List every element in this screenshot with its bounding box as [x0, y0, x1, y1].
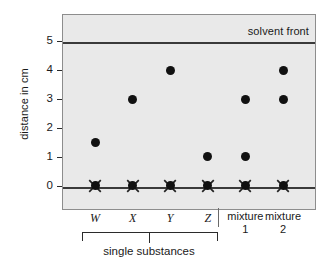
solvent-front-label: solvent front — [248, 25, 309, 37]
y-tick-label: 5 — [47, 36, 53, 48]
origin-dot — [166, 181, 175, 190]
y-tick-label: 4 — [47, 64, 53, 76]
solvent-front-line — [63, 42, 315, 44]
single-substances-label: single substances — [64, 245, 234, 257]
y-tick-mark — [57, 186, 62, 187]
origin-dot — [241, 181, 250, 190]
y-tick-label: 0 — [47, 180, 53, 192]
group-divider — [218, 208, 219, 227]
bracket-stem — [149, 232, 150, 243]
chromatogram-spot — [241, 152, 250, 161]
y-tick-mark — [57, 99, 62, 100]
x-axis-label-mixture-2: mixture2 — [252, 210, 314, 235]
chromatogram-figure: distance in cm solvent front 012345 WXYZ… — [0, 0, 331, 276]
y-axis-label: distance in cm — [18, 44, 30, 164]
chromatogram-spot — [91, 138, 100, 147]
y-tick-label: 2 — [47, 122, 53, 134]
y-tick-label: 3 — [47, 93, 53, 105]
chromatogram-spot — [241, 95, 250, 104]
origin-dot — [91, 181, 100, 190]
chromatogram-spot — [128, 95, 137, 104]
y-tick-label: 1 — [47, 151, 53, 163]
chromatogram-spot — [166, 66, 175, 75]
y-tick-mark — [57, 128, 62, 129]
chromatogram-spot — [279, 95, 288, 104]
origin-dot — [279, 181, 288, 190]
y-tick-mark — [57, 157, 62, 158]
y-tick-mark — [57, 70, 62, 71]
y-tick-mark — [57, 41, 62, 42]
single-substances-bracket — [82, 232, 218, 241]
chromatogram-spot — [279, 66, 288, 75]
